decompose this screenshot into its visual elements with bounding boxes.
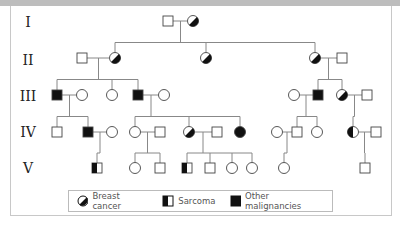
legend-item-breast-cancer: Breast cancer [77, 191, 148, 211]
legend-label-other-malignancies: Other malignancies [245, 191, 324, 211]
individual-iv11-female-unaffected [312, 127, 323, 138]
individual-v6-female-unaffected [227, 163, 238, 174]
individual-iv5-male-unaffected [155, 127, 165, 137]
individual-iv10-male-unaffected [292, 127, 302, 137]
individual-v7-female-unaffected [247, 163, 258, 174]
individual-iii2-female-unaffected [77, 90, 88, 101]
individual-v2-female-unaffected [130, 163, 141, 174]
individual-iv7-male-unaffected [212, 127, 222, 137]
individual-iv2-male-other [83, 127, 93, 137]
legend-item-sarcoma: Sarcoma [162, 195, 215, 207]
breast-cancer-symbol-icon [77, 195, 88, 207]
individual-iii6-female-unaffected [289, 90, 300, 101]
individual-iii4-male-other [133, 90, 143, 100]
individual-iv8-female-other [235, 127, 246, 138]
individual-iii7-male-other [313, 90, 323, 100]
other-malignancies-symbol-icon [230, 195, 241, 207]
individual-iv1-male-unaffected [52, 127, 62, 137]
individual-iv9-female-unaffected [272, 127, 283, 138]
individual-v8-female-unaffected [279, 163, 290, 174]
individual-v3-male-unaffected [155, 163, 165, 173]
individual-iv12-female-sarcoma-fill [348, 127, 353, 138]
individual-ii1-male-unaffected [77, 53, 87, 63]
sarcoma-symbol-icon [162, 195, 174, 207]
legend-label-breast-cancer: Breast cancer [92, 191, 148, 211]
individual-iii1-male-other [52, 90, 62, 100]
individual-v1-male-sarcoma-fill [92, 163, 97, 173]
legend: Breast cancer Sarcoma Other malignancies [68, 190, 333, 212]
individual-v4-male-sarcoma-fill [182, 163, 187, 173]
individual-iv4-female-unaffected [130, 127, 141, 138]
individual-iv3-female-unaffected [107, 127, 118, 138]
individual-iii9-male-unaffected [362, 90, 372, 100]
individual-iii3-female-unaffected [107, 90, 118, 101]
individual-i1-male-unaffected [163, 16, 173, 26]
individual-ii5-male-unaffected [337, 53, 347, 63]
individual-iv13-male-unaffected [371, 127, 381, 137]
individual-v5-male-unaffected [205, 163, 215, 173]
individual-iii5-female-unaffected [159, 90, 170, 101]
individual-v9-male-unaffected [360, 163, 370, 173]
legend-item-other-malignancies: Other malignancies [230, 191, 324, 211]
legend-label-sarcoma: Sarcoma [178, 196, 215, 206]
